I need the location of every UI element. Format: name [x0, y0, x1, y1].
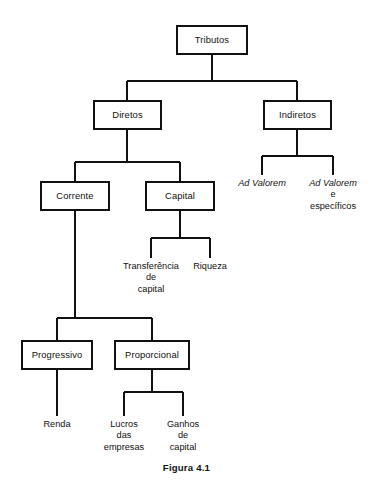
node-diretos-label: Diretos [112, 110, 142, 120]
leaf-line: Ganhos [153, 419, 213, 430]
node-capital-label: Capital [165, 191, 195, 201]
node-proporcional-label: Proporcional [125, 350, 179, 360]
leaf-line: e [295, 189, 371, 200]
leaf-line: Ad Valorem [225, 178, 299, 189]
leaf-line: das [91, 430, 157, 441]
connector-lines [0, 0, 373, 480]
node-corrente-label: Corrente [56, 191, 93, 201]
figure-caption: Figura 4.1 [0, 462, 373, 473]
leaf-line: capital [114, 284, 188, 295]
leaf-line: Renda [30, 419, 84, 430]
leaf-line: de [114, 272, 188, 283]
node-corrente[interactable]: Corrente [40, 181, 110, 211]
node-tributos-label: Tributos [195, 35, 229, 45]
leaf-line: capital [153, 442, 213, 453]
node-tributos[interactable]: Tributos [176, 25, 248, 55]
leaf-line: de [153, 430, 213, 441]
node-diretos[interactable]: Diretos [93, 100, 162, 130]
leaf-line: específicos [295, 201, 371, 212]
leaf-transferencia-de-capital: Transferênciadecapital [114, 261, 188, 295]
leaf-renda: Renda [30, 419, 84, 430]
leaf-ad-valorem-especificos: Ad Valoremeespecíficos [295, 178, 371, 212]
node-progressivo-label: Progressivo [32, 350, 83, 360]
figure-container: Tributos Diretos Indiretos Corrente Capi… [0, 0, 373, 480]
node-indiretos-label: Indiretos [279, 110, 316, 120]
leaf-line: Ad Valorem [295, 178, 371, 189]
node-indiretos[interactable]: Indiretos [263, 100, 332, 130]
leaf-riqueza: Riqueza [183, 261, 237, 272]
leaf-lucros-das-empresas: Lucrosdasempresas [91, 419, 157, 453]
leaf-line: Riqueza [183, 261, 237, 272]
leaf-line: empresas [91, 442, 157, 453]
node-progressivo[interactable]: Progressivo [21, 340, 93, 370]
leaf-ganhos-de-capital: Ganhosdecapital [153, 419, 213, 453]
leaf-line: Lucros [91, 419, 157, 430]
node-proporcional[interactable]: Proporcional [114, 340, 190, 370]
leaf-ad-valorem: Ad Valorem [225, 178, 299, 189]
node-capital[interactable]: Capital [145, 181, 215, 211]
leaf-line: Transferência [114, 261, 188, 272]
